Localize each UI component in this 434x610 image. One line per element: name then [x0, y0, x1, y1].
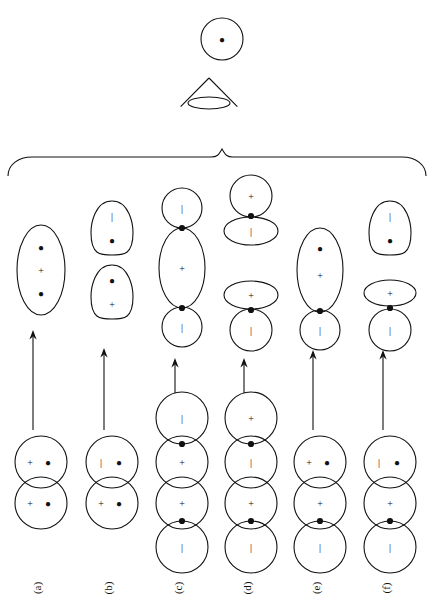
plus-sign: + [179, 457, 185, 468]
reactant-b: |●+● [86, 436, 138, 529]
filled-dot: ● [394, 457, 400, 468]
filled-dot: ● [116, 498, 122, 509]
reactant-c: |++| [156, 392, 208, 573]
column-f: |●+||●+| [364, 201, 416, 573]
filled-dot: ● [317, 243, 323, 254]
bar-sign: | [319, 542, 321, 553]
bar-sign: | [250, 457, 252, 468]
shape-circle [86, 436, 138, 488]
filled-dot: ● [109, 235, 115, 246]
junction-node [387, 518, 393, 524]
bar-sign: | [100, 457, 102, 468]
filled-dot: ● [38, 288, 44, 299]
plus-sign: + [179, 263, 185, 274]
junction-node [248, 518, 254, 524]
product-a: ●+● [17, 225, 65, 315]
plus-sign: + [387, 498, 393, 509]
bar-sign: | [389, 211, 391, 222]
arrow-a [29, 330, 36, 430]
junction-node [179, 441, 185, 447]
product-f: |●+| [364, 201, 416, 351]
filled-dot: ● [45, 457, 51, 468]
product-d: +|+| [224, 175, 278, 351]
cone-base-ellipse [188, 97, 230, 109]
reactant-e: +●+| [294, 436, 346, 573]
brace-group [8, 149, 426, 176]
shape-circle [294, 436, 346, 488]
shape-circle [15, 477, 67, 529]
bar-sign: | [389, 325, 391, 336]
top-cone [181, 78, 238, 109]
column-d: +|+|+|+| [224, 175, 278, 573]
filled-dot: ● [387, 235, 393, 246]
shape-cone [181, 78, 238, 109]
bar-sign: | [378, 457, 380, 468]
plus-sign: + [248, 498, 254, 509]
bar-sign: | [319, 325, 321, 336]
reactant-a: +●+● [15, 436, 67, 529]
filled-dot: ● [38, 242, 44, 253]
junction-node [248, 213, 254, 219]
junction-node [317, 518, 323, 524]
plus-sign: + [27, 498, 33, 509]
column-a: ●+●+●+● [15, 225, 67, 529]
arrow-e [309, 350, 316, 430]
cone-sides [181, 78, 238, 107]
bar-sign: | [250, 325, 252, 336]
shape-circle [86, 477, 138, 529]
column-label-e: (e) [310, 582, 323, 595]
filled-dot: ● [45, 498, 51, 509]
bar-sign: | [250, 226, 252, 237]
column-c: |+||++| [156, 188, 208, 573]
column-e: ●+|+●+| [294, 228, 346, 573]
junction-node [179, 225, 185, 231]
plus-sign: + [179, 498, 185, 509]
plus-sign: + [306, 457, 312, 468]
top-circle: ● [201, 18, 243, 60]
arrow-d [240, 358, 247, 393]
plus-sign: + [38, 265, 44, 276]
filled-dot: ● [219, 34, 225, 45]
junction-node [317, 308, 323, 314]
junction-node [248, 307, 254, 313]
arrow-f [379, 350, 386, 430]
product-c: |+| [159, 188, 205, 347]
bar-sign: | [389, 542, 391, 553]
shape-egg [91, 265, 133, 319]
bar-sign: | [181, 542, 183, 553]
plus-sign: + [387, 288, 393, 299]
junction-node [387, 305, 393, 311]
arrow-b [100, 348, 107, 430]
filled-dot: ● [324, 457, 330, 468]
plus-sign: + [109, 299, 115, 310]
junction-node [248, 441, 254, 447]
plus-sign: + [27, 457, 33, 468]
reactant-f: |●+| [364, 436, 416, 573]
orbital-configuration-figure: ● ●+●+●+●|●●+|●+●|+||++|+|+|+|+|●+|+●+||… [0, 0, 434, 610]
bar-sign: | [181, 322, 183, 333]
column-label-b: (b) [102, 581, 115, 594]
top-shapes-group: ● [181, 18, 243, 109]
bar-sign: | [181, 203, 183, 214]
column-label-f: (f) [380, 582, 393, 593]
bar-sign: | [181, 413, 183, 424]
product-b: |●●+ [91, 201, 133, 319]
filled-dot: ● [116, 457, 122, 468]
product-e: ●+| [297, 228, 343, 350]
brace-path [8, 149, 426, 176]
bar-sign: | [111, 211, 113, 222]
filled-dot: ● [109, 275, 115, 286]
column-labels-group: (a)(b)(c)(d)(e)(f) [31, 581, 393, 594]
junction-node [179, 305, 185, 311]
plus-sign: + [248, 413, 254, 424]
column-b: |●●+|●+● [86, 201, 138, 529]
plus-sign: + [248, 191, 254, 202]
shape-egg [91, 201, 133, 255]
shape-circle [364, 436, 416, 488]
plus-sign: + [317, 498, 323, 509]
column-label-d: (d) [241, 581, 254, 594]
plus-sign: + [248, 290, 254, 301]
bar-sign: | [250, 542, 252, 553]
column-label-c: (c) [172, 582, 185, 595]
shape-circle [15, 436, 67, 488]
